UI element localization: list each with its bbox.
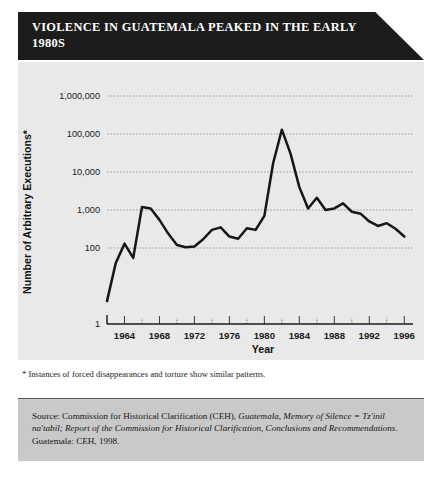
x-tick-label: 1984 — [289, 330, 311, 341]
source-block: Source: Commission for Historical Clarif… — [18, 398, 424, 461]
x-tick-label: 1980 — [254, 330, 275, 341]
title-banner: Violence in Guatemala Peaked in the Earl… — [18, 12, 424, 60]
x-axis-title: Year — [252, 343, 274, 355]
source-citation: Source: Commission for Historical Clarif… — [32, 410, 412, 447]
footnote: * Instances of forced disappearances and… — [22, 369, 422, 380]
y-tick-label: 100,000 — [67, 129, 100, 139]
x-tick-label: 1988 — [324, 330, 346, 341]
x-tick-label: 1976 — [219, 330, 240, 341]
chart-panel: 11001,00010,000100,0001,000,000 19641968… — [18, 62, 424, 360]
x-tick-label: 1992 — [359, 330, 380, 341]
data-line-arbitrary-executions — [107, 130, 404, 301]
y-tick-label: 1,000,000 — [59, 91, 100, 101]
x-tick-label: 1972 — [184, 330, 205, 341]
y-tick-label: 1 — [95, 319, 100, 329]
y-axis-title: Number of Arbitrary Executions* — [21, 129, 33, 294]
y-tick-label: 100 — [85, 243, 100, 253]
x-tick-label: 1996 — [394, 330, 415, 341]
x-tick-label: 1964 — [114, 330, 136, 341]
x-tick-label: 1968 — [149, 330, 171, 341]
figure-container: Violence in Guatemala Peaked in the Earl… — [0, 0, 445, 478]
axis-lines — [107, 315, 413, 324]
y-axis-ticks: 11001,00010,000100,0001,000,000 — [59, 91, 100, 329]
line-chart: 11001,00010,000100,0001,000,000 19641968… — [18, 62, 424, 360]
x-axis-ticks: 196419681972197619801984198819921996 — [107, 316, 415, 341]
page-title: Violence in Guatemala Peaked in the Earl… — [32, 19, 362, 51]
source-prefix: Source: Commission for Historical Clarif… — [32, 411, 238, 421]
y-tick-label: 1,000 — [77, 205, 100, 215]
y-tick-label: 10,000 — [72, 167, 100, 177]
